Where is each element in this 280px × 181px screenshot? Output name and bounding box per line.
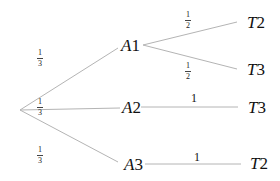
node-index: 2 [132,98,141,117]
denominator: 3 [36,108,44,117]
node-a1-t3: T3 [247,61,265,78]
denominator: 2 [184,72,192,81]
branch-root-a2 [20,108,120,110]
probability-tree-diagram: 1 3 1 3 1 3 A1 A2 A3 1 2 1 2 1 1 T2 T3 [0,0,280,181]
node-index: 2 [256,13,265,32]
node-letter: A [124,155,134,174]
node-index: 3 [256,60,265,79]
prob-root-a2: 1 3 [36,98,44,117]
branch-root-a1 [20,48,118,110]
prob-root-a1: 1 3 [36,49,44,68]
numerator: 1 [184,62,192,71]
numerator: 1 [184,11,192,20]
denominator: 3 [36,156,44,165]
node-a2-t3: T3 [248,99,266,116]
node-a1-t2: T2 [247,14,265,31]
node-a3-t2: T2 [250,155,268,172]
node-index: 1 [131,36,140,55]
prob-a1-t2: 1 2 [184,11,192,30]
node-letter: A [121,36,131,55]
node-index: 3 [134,155,143,174]
node-a3: A3 [124,156,143,173]
node-a2: A2 [122,99,141,116]
node-index: 3 [257,98,266,117]
prob-a3-t2: 1 [194,151,200,163]
numerator: 1 [36,98,44,107]
node-letter: A [122,98,132,117]
numerator: 1 [36,49,44,58]
denominator: 3 [36,59,44,68]
node-a1: A1 [121,37,140,54]
prob-root-a3: 1 3 [36,146,44,165]
node-index: 2 [259,154,268,173]
numerator: 1 [36,146,44,155]
denominator: 2 [184,21,192,30]
branch-root-a3 [20,110,118,162]
prob-a2-t3: 1 [191,92,197,104]
prob-a1-t3: 1 2 [184,62,192,81]
